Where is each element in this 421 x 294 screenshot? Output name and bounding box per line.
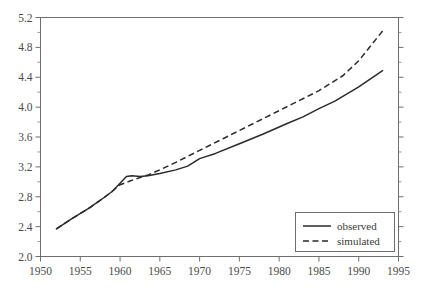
x-tick-label: 1970 [188, 265, 211, 277]
y-tick-label: 4.0 [18, 101, 33, 113]
x-tick-label: 1960 [109, 265, 132, 277]
y-tick-label: 3.6 [18, 131, 33, 143]
legend-label-observed: observed [337, 220, 377, 232]
line-chart: 2.02.42.83.23.64.04.44.85.2 195019551960… [0, 0, 421, 294]
x-tick-label: 1950 [29, 265, 52, 277]
y-tick-label: 3.2 [18, 161, 33, 173]
y-axis-tick-labels: 2.02.42.83.23.64.04.44.85.2 [18, 12, 33, 263]
x-tick-label: 1965 [148, 265, 171, 277]
y-tick-label: 2.4 [18, 221, 33, 233]
x-tick-label: 1975 [228, 265, 251, 277]
y-tick-label: 5.2 [18, 12, 33, 24]
y-tick-label: 4.8 [18, 41, 33, 53]
x-tick-label: 1955 [69, 265, 92, 277]
chart-container: 2.02.42.83.23.64.04.44.85.2 195019551960… [0, 0, 421, 294]
x-tick-label: 1990 [347, 265, 370, 277]
y-tick-label: 4.4 [18, 71, 33, 83]
x-tick-label: 1985 [307, 265, 330, 277]
y-tick-label: 2.0 [18, 251, 33, 263]
chart-legend: observed simulated [296, 213, 395, 252]
x-tick-label: 1995 [387, 265, 410, 277]
legend-label-simulated: simulated [337, 235, 380, 247]
y-tick-label: 2.8 [18, 191, 33, 203]
x-tick-label: 1980 [268, 265, 291, 277]
